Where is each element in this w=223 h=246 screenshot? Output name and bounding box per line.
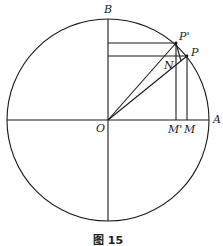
label-B: B (103, 3, 112, 16)
label-P: P (190, 46, 199, 59)
label-O: O (96, 122, 105, 135)
figure-caption: 图 15 (93, 234, 123, 246)
segment-P-prime-N (176, 43, 181, 61)
label-M: M (183, 123, 196, 136)
radius-OP-prime (108, 43, 176, 120)
label-M-prime: M' (167, 123, 182, 136)
radius-OP (108, 56, 187, 120)
label-A: A (212, 113, 221, 126)
point-P (186, 55, 189, 58)
point-P-prime (175, 42, 178, 45)
label-P-prime: P' (178, 30, 189, 43)
unit-circle-diagram: B P' P N O M' M A 图 15 (0, 0, 223, 246)
label-N: N (163, 59, 174, 72)
